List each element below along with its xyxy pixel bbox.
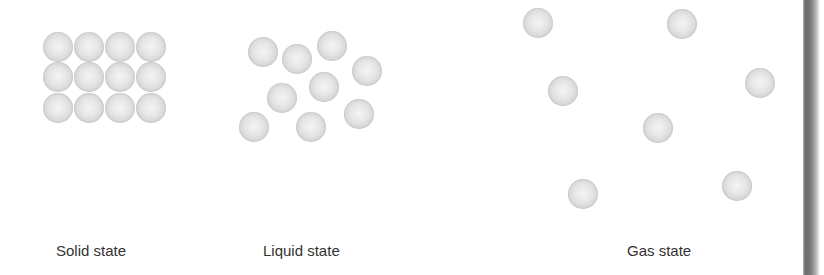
liquid-particle — [309, 72, 339, 102]
liquid-particle — [296, 112, 326, 142]
solid-state-label: Solid state — [56, 242, 126, 259]
gas-particle — [548, 76, 578, 106]
liquid-particle — [267, 83, 297, 113]
solid-particle — [105, 93, 135, 123]
liquid-particle — [352, 56, 382, 86]
solid-particle — [74, 93, 104, 123]
solid-particle — [43, 32, 73, 62]
gas-particle — [667, 9, 697, 39]
solid-particle — [74, 32, 104, 62]
solid-particle — [136, 32, 166, 62]
liquid-particle — [344, 99, 374, 129]
gas-particle — [643, 113, 673, 143]
solid-particle — [136, 93, 166, 123]
solid-particle — [74, 62, 104, 92]
solid-particle — [43, 62, 73, 92]
solid-particle — [43, 93, 73, 123]
gas-particle — [722, 171, 752, 201]
solid-particle — [105, 62, 135, 92]
page-edge-shadow — [803, 0, 820, 275]
gas-particle — [523, 8, 553, 38]
liquid-particle — [317, 31, 347, 61]
gas-particle — [745, 68, 775, 98]
gas-particle — [568, 179, 598, 209]
states-of-matter-diagram: Solid state Liquid state Gas state — [0, 0, 824, 275]
liquid-particle — [282, 44, 312, 74]
solid-particle — [105, 32, 135, 62]
liquid-particle — [239, 112, 269, 142]
gas-state-label: Gas state — [627, 242, 691, 259]
liquid-particle — [248, 37, 278, 67]
solid-particle — [136, 62, 166, 92]
liquid-state-label: Liquid state — [263, 242, 340, 259]
